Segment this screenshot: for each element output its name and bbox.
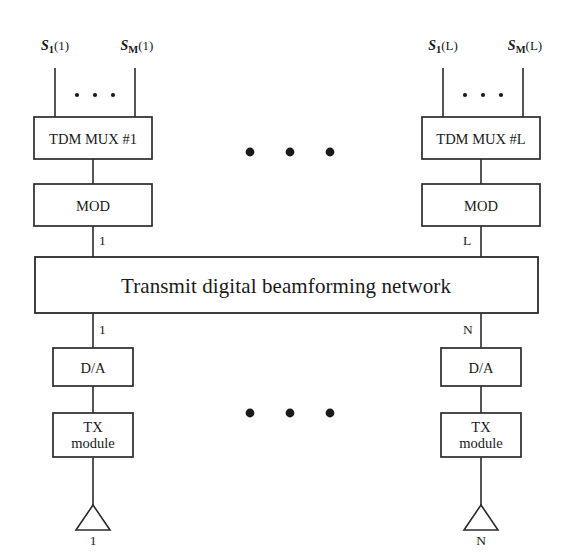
- right-mod-output-label: L: [463, 234, 471, 248]
- left-input-symbol-1: S: [41, 38, 49, 53]
- right-network-output-label: N: [463, 323, 473, 337]
- right-input-label-m: SM(L): [508, 39, 542, 55]
- beamforming-network-label: Transmit digital beamforming network: [121, 276, 451, 297]
- left-antenna-label: 1: [90, 534, 97, 548]
- right-input-symbol-1: S: [428, 38, 436, 53]
- block-diagram: S1(1) SM(1) S1(L) SM(L) TDM MUX #1 MOD 1…: [0, 0, 572, 560]
- left-input-index-1: (1): [54, 38, 69, 53]
- left-network-output-label: 1: [99, 323, 106, 337]
- right-input-label-1: S1(L): [428, 39, 458, 55]
- right-antenna-label: N: [476, 534, 486, 548]
- left-tx-module-label-line2: module: [71, 435, 115, 451]
- right-input-index-1: (L): [441, 38, 458, 53]
- left-tdm-mux-label: TDM MUX #1: [49, 132, 137, 147]
- left-antenna-icon: [76, 505, 110, 530]
- left-mod-label: MOD: [76, 199, 110, 214]
- right-antenna-icon: [464, 505, 498, 530]
- left-input-label-m: SM(1): [121, 39, 154, 55]
- right-input-ellipsis: [463, 93, 503, 97]
- left-mod-output-label: 1: [99, 234, 106, 248]
- left-input-index-m: (1): [138, 38, 153, 53]
- right-tdm-mux-label: TDM MUX #L: [436, 132, 525, 147]
- left-tx-module-label: TX module: [71, 419, 115, 451]
- upper-column-ellipsis: [246, 148, 335, 157]
- left-tx-module-label-line1: TX: [83, 419, 102, 435]
- right-tx-module-label-line2: module: [459, 435, 503, 451]
- left-input-label-1: S1(1): [41, 39, 69, 55]
- left-da-label: D/A: [81, 361, 106, 376]
- right-input-index-m: (L): [526, 38, 543, 53]
- left-input-symbol-m: S: [121, 38, 129, 53]
- left-input-ellipsis: [75, 93, 115, 97]
- lower-column-ellipsis: [246, 409, 335, 418]
- right-da-label: D/A: [469, 361, 494, 376]
- right-mod-label: MOD: [464, 199, 498, 214]
- right-input-subscript-m: M: [516, 44, 526, 55]
- right-input-symbol-m: S: [508, 38, 516, 53]
- right-tx-module-label: TX module: [459, 419, 503, 451]
- left-input-subscript-m: M: [128, 44, 138, 55]
- right-tx-module-label-line1: TX: [471, 419, 490, 435]
